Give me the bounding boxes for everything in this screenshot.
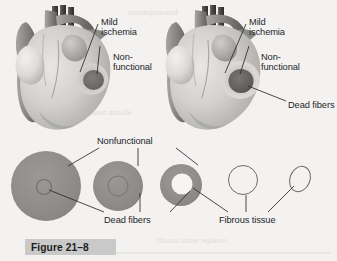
figure-artwork: [0, 0, 337, 261]
label-mild-ischemia-left: Mild ischemia: [101, 17, 137, 37]
label-dead-fibers-right: Dead fibers: [288, 100, 334, 110]
label-nonfunctional-cross: Nonfunctional: [97, 136, 153, 146]
label-dead-fibers-cross: Dead fibers: [104, 215, 150, 225]
cross-section-1: [11, 151, 81, 221]
cross-section-4: [229, 166, 258, 195]
label-nonfunctional-left: Non- functional: [113, 52, 152, 72]
label-fibrous-tissue: Fibrous tissue: [219, 215, 275, 225]
heart-right-illustration: [165, 5, 260, 130]
cross-section-2: [93, 161, 143, 211]
label-mild-ischemia-right: Mild ischemia: [249, 17, 285, 37]
heart-left-illustration: [15, 5, 110, 130]
figure-caption-band: Figure 21–8: [25, 239, 116, 255]
cross-section-row: [11, 151, 314, 221]
label-nonfunctional-right: Non- functional: [261, 52, 300, 72]
figure-caption-text: Figure 21–8: [25, 242, 89, 253]
cross-section-3: [160, 164, 202, 206]
figure-21-8: uncompensated the ischemia of the heart …: [0, 0, 337, 261]
